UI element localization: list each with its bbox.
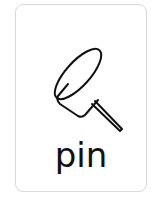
- word-card[interactable]: pin: [15, 4, 147, 192]
- word-label: pin: [16, 135, 146, 175]
- pushpin-icon: [34, 38, 130, 134]
